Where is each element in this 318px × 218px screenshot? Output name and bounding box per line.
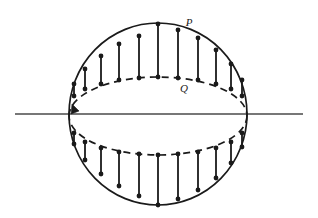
lower-chord-p-dot [240, 145, 245, 150]
figure-container: PQ [0, 0, 318, 218]
lower-chord-q-dot [176, 152, 181, 157]
upper-chord-q-dot [72, 94, 77, 99]
upper-chord-p-dot [83, 67, 88, 72]
upper-chord-q-dot [156, 75, 161, 80]
upper-chord-q-dot [214, 82, 219, 87]
lower-chord-q-dot [137, 152, 142, 157]
equator-ellipse-layer [69, 77, 247, 155]
lower-chord-q-dot [229, 140, 234, 145]
lower-chord-q-dot [196, 150, 201, 155]
upper-chord-p-dot [229, 62, 234, 67]
lower-chord-p-dot [176, 197, 181, 202]
upper-chord-q-dot [240, 94, 245, 99]
lower-chord-p-dot [214, 176, 219, 181]
upper-chord-p-dot [99, 54, 104, 59]
lower-chord-q-dot [117, 150, 122, 155]
upper-chord-q-dot [137, 76, 142, 81]
lower-chord-p-dot [156, 203, 161, 208]
upper-chord-q-dot [196, 78, 201, 83]
lower-chord-p-dot [99, 172, 104, 177]
direction-arrow [71, 104, 79, 114]
lower-chord-p-dot [72, 142, 77, 147]
upper-chord-p-dot [156, 22, 161, 27]
upper-chord-p-dot [214, 48, 219, 53]
lower-chord-q-dot [99, 146, 104, 151]
lower-chord-q-dot [156, 153, 161, 158]
upper-chord-p-dot [137, 34, 142, 39]
lower-chord-q-dot [83, 140, 88, 145]
lower-chord-p-dot [117, 184, 122, 189]
upper-chord-q-dot [117, 78, 122, 83]
lower-chord-p-dot [137, 194, 142, 199]
lower-chord-q-dot [240, 131, 245, 136]
point-q-label: Q [180, 82, 188, 94]
upper-chord-q-dot [99, 82, 104, 87]
equator-front-arc-dashed [69, 116, 247, 155]
upper-chord-p-dot [196, 36, 201, 41]
lower-chord-q-dot [72, 131, 77, 136]
upper-chord-p-dot [240, 78, 245, 83]
direction-arrow-layer [71, 104, 79, 114]
upper-chord-p-dot [72, 82, 77, 87]
upper-chord-p-dot [176, 28, 181, 33]
lower-chord-p-dot [196, 188, 201, 193]
upper-chord-q-dot [176, 76, 181, 81]
lower-chord-p-dot [229, 161, 234, 166]
lower-chord-p-dot [83, 158, 88, 163]
point-p-label: P [185, 16, 193, 28]
lower-chord-q-dot [214, 146, 219, 151]
sphere-diagram-svg: PQ [0, 0, 318, 218]
upper-chord-p-dot [117, 42, 122, 47]
upper-chord-q-dot [83, 87, 88, 92]
top-scan-artifact [0, 0, 318, 9]
point-labels-layer: PQ [180, 16, 193, 94]
equator-back-arc-dashed [69, 77, 247, 116]
upper-chord-q-dot [229, 87, 234, 92]
